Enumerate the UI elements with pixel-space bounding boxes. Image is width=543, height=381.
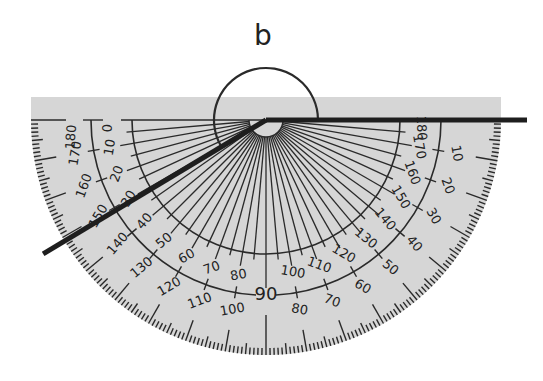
outer-scale-label: 10 (448, 144, 466, 163)
degree-tick (233, 346, 234, 353)
degree-tick (492, 152, 499, 153)
degree-tick (298, 346, 299, 353)
degree-tick (492, 148, 499, 149)
degree-tick (294, 346, 295, 353)
degree-tick (33, 152, 40, 153)
degree-tick (241, 347, 242, 354)
inner-scale-label: 0 (100, 124, 115, 133)
protractor-diagram: 1701601501401301201101008070605040302010… (0, 0, 543, 381)
degree-tick (286, 343, 287, 354)
degree-tick (290, 347, 291, 354)
angle-b-label: b (254, 22, 272, 50)
degree-tick (32, 140, 43, 141)
degree-tick (246, 343, 247, 354)
outer-scale-label-180: 180 (62, 124, 79, 150)
degree-tick (33, 148, 40, 149)
center-90-label: 90 (255, 283, 278, 304)
degree-tick (493, 144, 500, 145)
degree-tick (489, 140, 500, 141)
inner-scale-label: 80 (229, 266, 248, 284)
inner-scale-label: 10 (101, 138, 119, 157)
protractor-svg: 1701601501401301201101008070605040302010… (0, 0, 543, 381)
outer-scale-label: 80 (290, 300, 309, 318)
degree-tick (237, 346, 238, 353)
degree-tick (32, 144, 39, 145)
